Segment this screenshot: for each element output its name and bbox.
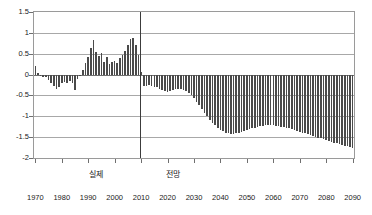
x-axis-tick-label: 2090 (338, 193, 368, 202)
x-axis: 1970198019902000201020202030204020502060… (0, 0, 372, 215)
x-axis-tick (115, 159, 116, 163)
x-axis-tick (300, 159, 301, 163)
actual-region-label: 실제 (76, 168, 116, 179)
x-axis-tick (194, 159, 195, 163)
x-axis-tick (326, 159, 327, 163)
x-axis-tick (141, 159, 142, 163)
x-axis-tick (220, 159, 221, 163)
forecast-region-label: 전망 (153, 168, 193, 179)
x-axis-tick (168, 159, 169, 163)
x-axis-tick (35, 159, 36, 163)
x-axis-tick (62, 159, 63, 163)
bar-chart: 1.510.50-0.5-1-1.5-2 1970198019902000201… (0, 0, 372, 215)
x-axis-tick (88, 159, 89, 163)
x-axis-tick (273, 159, 274, 163)
x-axis-tick (353, 159, 354, 163)
x-axis-tick (247, 159, 248, 163)
